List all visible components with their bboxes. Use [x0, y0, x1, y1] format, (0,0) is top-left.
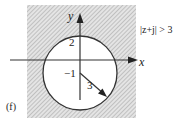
y-axis-label: y: [68, 10, 73, 22]
top-intercept-label: 2: [69, 37, 75, 48]
center-label: −1: [64, 68, 76, 79]
region-diagram: [0, 0, 177, 124]
radius-label: 3: [87, 80, 93, 91]
panel-label: (f): [6, 102, 16, 112]
x-axis-label: x: [139, 56, 144, 68]
region-inequality-label: |z+j| > 3: [140, 25, 173, 35]
